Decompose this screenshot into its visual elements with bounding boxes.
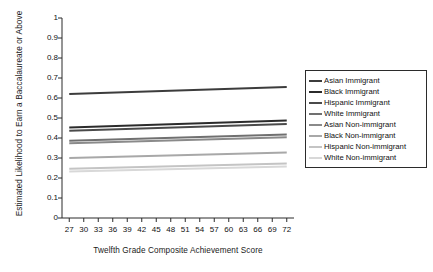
legend-item[interactable]: Asian Immigrant [309,75,423,86]
legend-color-swatch [309,91,322,93]
tick-marks [58,18,287,222]
x-axis-tick-labels: 27303336394245485154576063666972 [62,226,294,238]
legend-label: Hispanic Immigrant [324,98,390,107]
legend-item[interactable]: Black Non-immigrant [309,130,423,141]
legend-color-swatch [309,146,322,148]
y-tick-label: 0.7 [34,74,58,82]
y-tick-label: 0.3 [34,154,58,162]
y-tick-label: 0.9 [34,34,58,42]
legend-label: Hispanic Non-immigrant [324,142,406,151]
y-axis-title: Estimated Likelihood to Earn a Baccalaur… [15,4,24,224]
legend-label: White Non-immigrant [324,153,396,162]
y-tick-label: 0.6 [34,94,58,102]
legend-label: Asian Immigrant [324,76,380,85]
y-tick-label: 0.8 [34,54,58,62]
series-line [69,153,287,158]
legend-item[interactable]: Hispanic Non-immigrant [309,141,423,152]
legend-color-swatch [309,102,322,104]
legend-color-swatch [309,135,322,137]
legend-color-swatch [309,80,322,82]
x-axis-title: Twelfth Grade Composite Achievement Scor… [62,246,294,255]
series-line [69,87,287,94]
legend-label: Black Immigrant [324,87,379,96]
y-tick-label: 0 [34,214,58,222]
legend-item[interactable]: Black Immigrant [309,86,423,97]
legend-label: Black Non-immigrant [324,131,395,140]
chart-figure: Estimated Likelihood to Earn a Baccalaur… [0,0,433,272]
y-axis-tick-labels: 00.10.20.30.40.50.60.70.80.91 [30,18,58,218]
y-tick-label: 0.1 [34,194,58,202]
legend-color-swatch [309,113,322,115]
axis-lines [62,18,294,218]
legend-label: White Immigrant [324,109,380,118]
legend-label: Asian Non-immigrant [324,120,396,129]
plot-svg [62,18,294,218]
y-tick-label: 0.2 [34,174,58,182]
y-tick-label: 1 [34,14,58,22]
chart-legend: Asian ImmigrantBlack ImmigrantHispanic I… [305,70,427,168]
legend-color-swatch [309,124,322,126]
plot-area [62,18,294,218]
legend-item[interactable]: White Non-immigrant [309,152,423,163]
x-tick-label: 72 [277,226,297,234]
legend-item[interactable]: Hispanic Immigrant [309,97,423,108]
legend-item[interactable]: White Immigrant [309,108,423,119]
legend-color-swatch [309,157,322,159]
y-tick-label: 0.4 [34,134,58,142]
legend-item[interactable]: Asian Non-immigrant [309,119,423,130]
series-group [69,87,287,172]
y-tick-label: 0.5 [34,114,58,122]
